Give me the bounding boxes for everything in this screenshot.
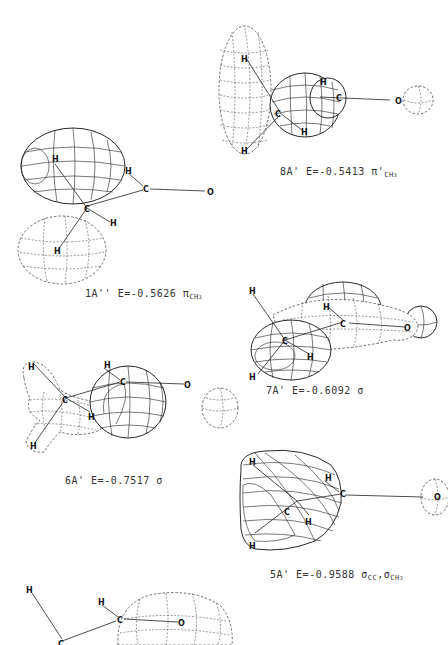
orbital-label: 6A' [65,475,85,486]
orbital-6A-plot: H C H H H C O [20,350,230,465]
atom-h: H [110,219,117,228]
orbital-label: 8A' [280,166,300,177]
orbital-partial-plot: H H C O C [20,585,240,645]
atom-c: C [120,378,126,387]
orbital-character: σ [357,385,364,396]
orbital-7A-drawing: H C H H H C O [243,270,448,390]
orbital-character-sub3: CH [390,574,399,582]
orbital-partial-drawing: H H C O C [20,585,240,645]
atom-c: C [284,508,290,517]
atom-o: O [207,188,214,197]
atom-o: O [178,619,185,628]
atom-o: O [434,493,441,502]
orbital-label: 7A' [266,385,286,396]
orbital-energy: E=-0.5626 [118,288,177,299]
orbital-character-sub: CH [384,171,393,179]
atom-h: H [54,247,61,256]
orbital-energy: E=-0.7517 [91,475,150,486]
orbital-1A2-plot: H C H H H C O [15,120,225,280]
atom-o: O [184,381,191,390]
orbital-6A-caption: 6A' E=-0.7517 σ [65,475,163,486]
atom-h: H [249,542,256,551]
atom-c: C [282,337,288,346]
orbital-label: 5A' [270,569,290,580]
atom-c: C [84,205,90,214]
atom-c: C [143,185,149,194]
atom-h: H [325,474,332,483]
atom-h: H [125,167,132,176]
atom-h: H [301,128,308,137]
orbital-character: σ [156,475,163,486]
atom-c: C [58,640,64,645]
atom-c: C [62,396,68,405]
atom-h: H [323,303,330,312]
atom-h: H [241,55,248,64]
atom-h: H [241,147,248,156]
orbital-energy: E=-0.9588 [296,569,355,580]
atom-h: H [26,586,33,595]
orbital-7A-plot: H C H H H C O [243,270,448,390]
orbital-7A-caption: 7A' E=-0.6092 σ [266,385,364,396]
orbital-8A-drawing: H H C H H C O [210,20,440,170]
atom-o: O [404,324,411,333]
orbital-5A-drawing: H H C C H H O [235,445,448,570]
orbital-label: 1A'' [85,288,111,299]
orbital-1A2-drawing: H C H H H C O [15,120,225,280]
orbital-character-sub: CH [189,293,198,301]
atom-h: H [104,361,111,370]
atom-h: H [307,353,314,362]
atom-o: O [395,97,402,106]
orbital-1A2-caption: 1A'' E=-0.5626 πCH3 [85,288,202,301]
atom-c: C [340,320,346,329]
orbital-energy: E=-0.6092 [292,385,351,396]
atom-c: C [340,490,346,499]
orbital-6A-drawing: H C H H H C O [20,350,230,465]
orbital-5A-caption: 5A' E=-0.9588 σCC,σCH3 [270,569,403,582]
orbital-character-extra: ,σ [377,569,390,580]
atom-c: C [336,94,342,103]
atom-h: H [30,442,37,451]
atom-h: H [98,598,105,607]
atom-h: H [88,413,95,422]
atom-h: H [249,458,256,467]
atom-h: H [320,78,327,87]
orbital-character-sub4: 3 [400,575,404,581]
atom-h: H [52,155,59,164]
orbital-character-sub2: 3 [199,294,203,300]
atom-h: H [249,373,256,382]
orbital-character: π' [371,166,384,177]
atom-h: H [28,363,35,372]
orbital-8A-plot: H H C H H C O [210,20,440,170]
orbital-energy: E=-0.5413 [306,166,365,177]
orbital-5A-plot: H H C C H H O [235,445,448,570]
orbital-8A-caption: 8A' E=-0.5413 π'CH3 [280,166,397,179]
orbital-character-sub: CC [368,574,377,582]
atom-h: H [305,518,312,527]
orbital-character-sub2: 3 [394,172,398,178]
atom-h: H [249,287,256,296]
atom-c: C [275,110,281,119]
atom-c: C [117,616,123,625]
